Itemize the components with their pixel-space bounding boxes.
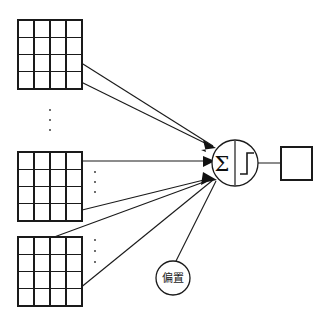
summation-activation-node[interactable]: Σ — [212, 140, 258, 186]
ellipsis-between-top-and-middle — [49, 109, 51, 131]
ellipsis-dot — [94, 239, 96, 241]
ellipsis-dot — [49, 109, 51, 111]
output-box-border — [281, 147, 312, 180]
input-matrix-middle[interactable] — [18, 152, 82, 221]
diagram-canvas: Σ 偏置 — [0, 0, 329, 320]
ellipsis-dot — [94, 191, 96, 193]
input-matrix-top[interactable] — [18, 20, 82, 89]
ellipsis-dot — [49, 129, 51, 131]
ellipsis-dot — [94, 171, 96, 173]
ellipsis-right-of-middle — [94, 171, 96, 193]
connection-middle-matrix-b — [74, 178, 212, 212]
ellipsis-dot — [94, 181, 96, 183]
connection-bottom-matrix-b — [74, 180, 213, 293]
bias-node[interactable]: 偏置 — [156, 261, 190, 295]
connection-bias — [176, 181, 216, 261]
output-box[interactable] — [281, 147, 312, 180]
bias-label: 偏置 — [162, 271, 184, 285]
connection-top-matrix-b — [75, 79, 213, 147]
ellipsis-dot — [94, 261, 96, 263]
input-matrix-bottom[interactable] — [18, 237, 82, 306]
ellipsis-dot — [94, 250, 96, 252]
ellipsis-dot — [49, 119, 51, 121]
neural-network-diagram: Σ 偏置 — [0, 0, 329, 320]
sigma-icon: Σ — [215, 152, 230, 176]
ellipsis-right-of-bottom — [94, 239, 96, 263]
